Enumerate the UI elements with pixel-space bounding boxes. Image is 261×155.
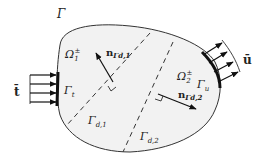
traction-boundary (57, 72, 58, 106)
traction-arrows (30, 75, 56, 104)
displacement-vector-label: ū (243, 53, 252, 67)
subdomain1-label: Ω1± (64, 47, 81, 63)
domain-body (57, 25, 220, 152)
traction-vector-label: t̄ (14, 83, 20, 99)
subdomain2-label: Ω2± (176, 69, 193, 85)
boundary-label: Γ (56, 7, 66, 21)
diagram-canvas: Γ Ω1± Ω2± Γt Γu Γd,1 Γd,2 nΓd,1 nΓd,2 t̄… (0, 0, 261, 155)
